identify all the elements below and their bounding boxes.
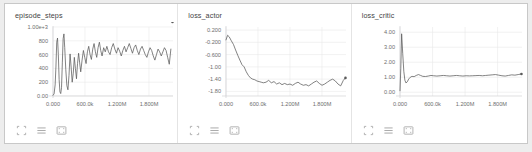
- chart-card-loss-actor[interactable]: loss_actor 0.200-0.200-0.600-1.00-1.40-1…: [178, 4, 351, 143]
- scalars-panel-root: episode_steps 1.00e+38006004002000.000.0…: [0, 0, 532, 152]
- x-tick-label: 1.800M: [488, 101, 507, 107]
- series-endpoint-marker: [345, 77, 348, 80]
- y-tick-label: 2.00: [384, 59, 395, 65]
- chart-card-strip: episode_steps 1.00e+38006004002000.000.0…: [4, 3, 528, 144]
- y-tick-label: -0.200: [205, 39, 221, 45]
- series-endpoint-marker: [171, 22, 174, 23]
- y-tick-label: 1.00e+3: [28, 24, 48, 30]
- expand-corners-icon[interactable]: [189, 125, 200, 136]
- hamburger-lines-icon[interactable]: [36, 125, 47, 136]
- chart-title: episode_steps: [15, 11, 63, 20]
- y-tick-label: -0.600: [205, 52, 221, 58]
- y-tick-label: 0.200: [207, 27, 221, 33]
- chart-card-episode-steps[interactable]: episode_steps 1.00e+38006004002000.000.0…: [5, 4, 178, 143]
- x-tick-label: 600.0k: [77, 101, 94, 107]
- y-tick-label: 800: [39, 38, 48, 44]
- expand-corners-icon[interactable]: [16, 125, 27, 136]
- chart-svg-episode-steps: 1.00e+38006004002000.000.000600.0k1.200M…: [5, 22, 178, 116]
- chart-series-line: [226, 35, 345, 86]
- chart-toolbar: [189, 125, 240, 136]
- hamburger-lines-icon[interactable]: [209, 125, 220, 136]
- x-tick-label: 0.000: [219, 101, 233, 107]
- series-endpoint-marker: [520, 73, 523, 76]
- chart-svg-loss-critic: 4.003.002.001.000.000.000600.0k1.200M1.8…: [352, 22, 527, 116]
- x-tick-label: 1.800M: [140, 101, 159, 107]
- crop-frame-icon[interactable]: [229, 125, 240, 136]
- x-tick-label: 600.0k: [250, 101, 267, 107]
- y-tick-label: -1.40: [209, 76, 222, 82]
- y-tick-label: 0.00: [384, 89, 395, 95]
- x-tick-label: 0.000: [46, 101, 60, 107]
- y-tick-label: 4.00: [384, 29, 395, 35]
- x-tick-label: 1.200M: [281, 101, 300, 107]
- x-tick-label: 0.000: [393, 101, 407, 107]
- y-tick-label: -1.80: [209, 88, 222, 94]
- chart-toolbar: [16, 125, 67, 136]
- x-tick-label: 600.0k: [424, 101, 441, 107]
- y-tick-label: 200: [39, 79, 48, 85]
- chart-title: loss_actor: [188, 11, 222, 20]
- chart-series-line: [53, 34, 171, 95]
- y-tick-label: 600: [39, 52, 48, 58]
- y-tick-label: 1.00: [384, 74, 395, 80]
- y-tick-label: -1.00: [209, 64, 222, 70]
- x-tick-label: 1.200M: [455, 101, 474, 107]
- x-tick-label: 1.200M: [108, 101, 127, 107]
- y-tick-label: 3.00: [384, 44, 395, 50]
- chart-plot-area[interactable]: 0.200-0.200-0.600-1.00-1.40-1.800.000600…: [178, 22, 351, 116]
- chart-plot-area[interactable]: 1.00e+38006004002000.000.000600.0k1.200M…: [5, 22, 178, 116]
- expand-corners-icon[interactable]: [363, 125, 374, 136]
- y-tick-label: 0.00: [37, 93, 48, 99]
- chart-toolbar: [363, 125, 414, 136]
- crop-frame-icon[interactable]: [56, 125, 67, 136]
- crop-frame-icon[interactable]: [403, 125, 414, 136]
- y-tick-label: 400: [39, 65, 48, 71]
- hamburger-lines-icon[interactable]: [383, 125, 394, 136]
- chart-card-loss-critic[interactable]: loss_critic 4.003.002.001.000.000.000600…: [352, 4, 527, 143]
- x-tick-label: 1.800M: [313, 101, 332, 107]
- chart-plot-area[interactable]: 4.003.002.001.000.000.000600.0k1.200M1.8…: [352, 22, 526, 116]
- chart-title: loss_critic: [362, 11, 395, 20]
- chart-svg-loss-actor: 0.200-0.200-0.600-1.00-1.40-1.800.000600…: [178, 22, 351, 116]
